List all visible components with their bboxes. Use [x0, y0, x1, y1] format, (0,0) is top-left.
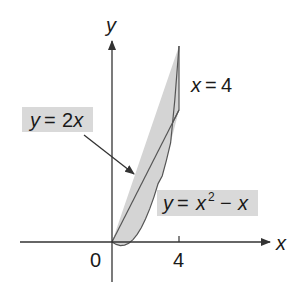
pointer-arrow [84, 135, 134, 174]
x-axis-label: x [275, 232, 287, 254]
svg-text:=: = [205, 74, 217, 96]
svg-text:x: x [237, 192, 249, 214]
svg-text:4: 4 [221, 74, 232, 96]
svg-text:−: − [220, 192, 232, 214]
line-rhs: 2x [62, 109, 84, 131]
svg-text:=: = [177, 192, 189, 214]
svg-text:x: x [195, 192, 207, 214]
svg-text:y: y [28, 109, 41, 131]
origin-label: 0 [90, 249, 101, 271]
y-axis-label: y [104, 14, 117, 36]
svg-text:y: y [161, 192, 174, 214]
x-tick-label-4: 4 [173, 249, 184, 271]
svg-text:x: x [190, 74, 202, 96]
svg-text:2: 2 [208, 190, 215, 204]
svg-text:=: = [44, 109, 56, 131]
label-x-equals-4: x = 4 [190, 74, 232, 96]
line-y-equals-2x-overlay [112, 110, 179, 242]
diagram-canvas: x y 0 4 x = 4 y = 2x y = x 2 − x [0, 0, 301, 295]
